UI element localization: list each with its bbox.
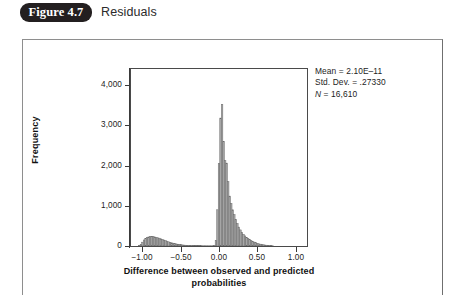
- x-axis-tick: [257, 247, 258, 252]
- x-axis-tick: [181, 247, 182, 252]
- y-axis-tick-label: 0: [84, 241, 122, 250]
- y-axis-tick: [125, 125, 130, 126]
- y-axis-tick-label: 3,000: [84, 120, 122, 129]
- y-axis-title: Frequency: [30, 80, 40, 200]
- x-axis-tick: [296, 247, 297, 252]
- y-axis-tick: [125, 166, 130, 167]
- plot-inner: [131, 69, 307, 246]
- y-axis-tick-label: 2,000: [84, 161, 122, 170]
- x-axis-tick: [142, 247, 143, 252]
- histogram-bars: [131, 69, 307, 246]
- y-axis-tick: [125, 246, 130, 247]
- stat-n-value: = 16,610: [321, 89, 357, 99]
- y-axis-tick-label: 1,000: [84, 201, 122, 210]
- stat-n: N = 16,610: [315, 89, 386, 100]
- x-axis-tick-label: 1.00: [271, 253, 321, 262]
- plot-frame: [130, 68, 308, 247]
- x-axis-title: Difference between observed and predicte…: [104, 266, 334, 289]
- statistics-annotation: Mean = 2.10E–11 Std. Dev. = .27330 N = 1…: [315, 66, 386, 100]
- x-axis-tick: [219, 247, 220, 252]
- y-axis-tick: [125, 85, 130, 86]
- stat-std-dev: Std. Dev. = .27330: [315, 77, 386, 88]
- y-axis-tick-label: 4,000: [84, 80, 122, 89]
- x-axis-title-line2: probabilities: [192, 278, 247, 288]
- x-axis-title-line1: Difference between observed and predicte…: [124, 266, 315, 276]
- stat-mean: Mean = 2.10E–11: [315, 66, 386, 77]
- y-axis-tick: [125, 206, 130, 207]
